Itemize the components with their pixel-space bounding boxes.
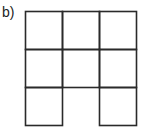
grid-cell (63, 12, 100, 50)
grid-cell (100, 88, 137, 126)
grid-cell (100, 12, 137, 50)
grid-cell (63, 50, 100, 88)
grid-cell (26, 88, 63, 126)
grid-figure (0, 0, 145, 132)
grid-cell (100, 50, 137, 88)
grid-cell (26, 50, 63, 88)
grid-cell (26, 12, 63, 50)
